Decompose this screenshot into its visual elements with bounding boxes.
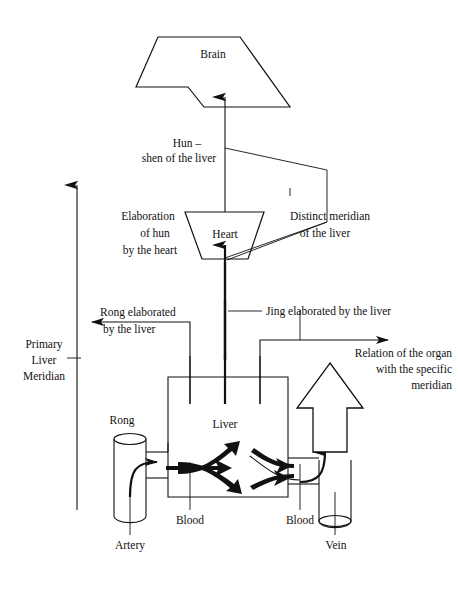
vein-label: Vein bbox=[325, 539, 346, 551]
brain-label: Brain bbox=[200, 48, 226, 60]
elaboration-label-line2: of hun bbox=[140, 227, 170, 239]
jing-label: Jing elaborated by the liver bbox=[266, 305, 391, 318]
primary-meridian-label-line2: Liver bbox=[32, 354, 57, 366]
artery-top-ellipse bbox=[114, 434, 146, 445]
primary-meridian-label-line1: Primary bbox=[25, 338, 62, 351]
distinct-meridian-label-line1: Distinct meridian bbox=[290, 210, 370, 222]
relation-label-line1: Relation of the organ bbox=[355, 347, 452, 360]
distinct-meridian-label-line2: of the liver bbox=[300, 227, 351, 239]
rong-label: Rong bbox=[110, 414, 135, 427]
hun-label-line1: Hun – bbox=[173, 137, 202, 149]
liver-label: Liver bbox=[213, 418, 238, 430]
blood-arrow-right-lower bbox=[250, 474, 294, 490]
rong-elaborated-label-line2: by the liver bbox=[103, 323, 156, 336]
distinct-meridian-bracket bbox=[225, 148, 327, 218]
primary-meridian-label-line3: Meridian bbox=[23, 370, 65, 382]
vessel-hollow-arrow bbox=[297, 363, 363, 452]
relation-label-line2: with the specific bbox=[376, 363, 452, 376]
hun-label-line2: shen of the liver bbox=[142, 152, 217, 164]
blood-right-label: Blood bbox=[286, 514, 314, 526]
relation-label-line3: meridian bbox=[411, 379, 452, 391]
tcm-liver-diagram: Brain Heart Liver Hun – shen of the live… bbox=[0, 0, 458, 589]
blood-left-label: Blood bbox=[176, 514, 204, 526]
diagram-canvas: Brain Heart Liver Hun – shen of the live… bbox=[0, 0, 458, 589]
vein-flow-arrow bbox=[300, 452, 325, 482]
elaboration-label-line3: by the heart bbox=[123, 244, 178, 257]
elaboration-label-line1: Elaboration bbox=[121, 210, 175, 222]
rong-elaborated-label-line1: Rong elaborated bbox=[100, 306, 176, 319]
liver-blood-flow-left bbox=[166, 441, 242, 494]
heart-label: Heart bbox=[212, 228, 238, 240]
artery-label: Artery bbox=[115, 539, 145, 552]
artery-flow-arrow bbox=[130, 462, 157, 497]
